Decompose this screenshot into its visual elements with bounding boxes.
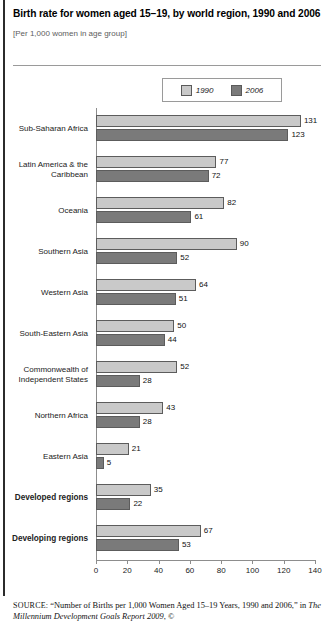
bar-value-label: 51 bbox=[179, 294, 188, 304]
source-line2-pre: and 2006,” in bbox=[261, 601, 308, 610]
legend-item-2006[interactable]: 2006 bbox=[231, 85, 264, 96]
bar-group-1990: 131 bbox=[96, 115, 317, 127]
chart-subtitle: [Per 1,000 women in age group] bbox=[13, 29, 322, 39]
legend-label: 1990 bbox=[196, 86, 214, 95]
bar-group-1990: 90 bbox=[96, 238, 249, 250]
category-label: Latin America & theCaribbean bbox=[0, 160, 96, 179]
bar-group-1990: 67 bbox=[96, 525, 213, 537]
bar-value-label: 28 bbox=[143, 417, 152, 427]
bar[interactable] bbox=[96, 156, 216, 168]
category-label: Northern Africa bbox=[0, 411, 96, 421]
x-tick-label: 0 bbox=[94, 566, 98, 575]
x-tick bbox=[315, 560, 316, 564]
category-label: Developing regions bbox=[0, 534, 96, 544]
bar-value-label: 50 bbox=[177, 321, 186, 331]
row-bars: 131123 bbox=[96, 108, 332, 149]
bar[interactable] bbox=[96, 211, 191, 223]
bar[interactable] bbox=[96, 170, 209, 182]
bar[interactable] bbox=[96, 197, 224, 209]
bar-value-label: 90 bbox=[240, 239, 249, 249]
bar-value-label: 72 bbox=[212, 171, 221, 181]
row-bars: 5044 bbox=[96, 313, 332, 354]
bar-group-1990: 82 bbox=[96, 197, 236, 209]
bar-value-label: 52 bbox=[180, 253, 189, 263]
category-label-line: Western Asia bbox=[41, 288, 88, 298]
bar[interactable] bbox=[96, 115, 301, 127]
bar-value-label: 77 bbox=[219, 157, 228, 167]
bar[interactable] bbox=[96, 238, 237, 250]
bar[interactable] bbox=[96, 129, 288, 141]
x-tick-label: 100 bbox=[246, 566, 259, 575]
category-label-line: Eastern Asia bbox=[43, 452, 88, 462]
bar-value-label: 53 bbox=[182, 540, 191, 550]
bar-group-2006: 51 bbox=[96, 293, 188, 305]
x-tick-label: 120 bbox=[277, 566, 290, 575]
source-line1: “Number of Births per 1,000 Women Aged 1… bbox=[50, 601, 259, 610]
category-label-line: Commonwealth of bbox=[24, 365, 88, 375]
x-axis-ticks: 020406080100120140 bbox=[0, 560, 332, 578]
bar-value-label: 22 bbox=[133, 499, 142, 509]
category-label-line: Caribbean bbox=[51, 170, 88, 180]
bar-group-2006: 123 bbox=[96, 129, 305, 141]
bar[interactable] bbox=[96, 457, 104, 469]
bar[interactable] bbox=[96, 498, 130, 510]
source-note: SOURCE: “Number of Births per 1,000 Wome… bbox=[13, 600, 323, 621]
row-bars: 4328 bbox=[96, 395, 332, 436]
x-tick bbox=[159, 560, 160, 564]
bar-group-2006: 61 bbox=[96, 211, 203, 223]
legend-label: 2006 bbox=[246, 86, 264, 95]
bar[interactable] bbox=[96, 402, 163, 414]
x-tick-label: 140 bbox=[308, 566, 321, 575]
bar-group-2006: 72 bbox=[96, 170, 221, 182]
page-title: Birth rate for women aged 15–19, by worl… bbox=[13, 7, 322, 20]
row-bars: 9052 bbox=[96, 231, 332, 272]
legend-item-1990[interactable]: 1990 bbox=[181, 85, 214, 96]
bar-group-2006: 53 bbox=[96, 539, 191, 551]
x-tick bbox=[284, 560, 285, 564]
bar[interactable] bbox=[96, 484, 151, 496]
bar[interactable] bbox=[96, 525, 201, 537]
bar-group-1990: 52 bbox=[96, 361, 189, 373]
row-bars: 8261 bbox=[96, 190, 332, 231]
legend-swatch-icon bbox=[181, 85, 192, 96]
category-label: Commonwealth ofIndependent States bbox=[0, 365, 96, 384]
bar-group-1990: 43 bbox=[96, 402, 175, 414]
chart-row: Eastern Asia215 bbox=[0, 436, 332, 477]
bar-group-1990: 50 bbox=[96, 320, 186, 332]
x-tick bbox=[127, 560, 128, 564]
chart-row: South-Eastern Asia5044 bbox=[0, 313, 332, 354]
bar[interactable] bbox=[96, 252, 177, 264]
row-bars: 215 bbox=[96, 436, 332, 477]
bar[interactable] bbox=[96, 539, 179, 551]
chart-row: Northern Africa4328 bbox=[0, 395, 332, 436]
bar[interactable] bbox=[96, 443, 129, 455]
x-tick bbox=[252, 560, 253, 564]
bar-group-1990: 64 bbox=[96, 279, 208, 291]
chart-row: Oceania8261 bbox=[0, 190, 332, 231]
category-label-line: South-Eastern Asia bbox=[20, 329, 88, 339]
bar[interactable] bbox=[96, 416, 140, 428]
legend-swatch-icon bbox=[231, 85, 242, 96]
chart-row: Developing regions6753 bbox=[0, 518, 332, 559]
bar-group-2006: 28 bbox=[96, 375, 152, 387]
bar[interactable] bbox=[96, 375, 140, 387]
source-line2-post: , © bbox=[164, 612, 175, 621]
category-label-line: Northern Africa bbox=[35, 411, 88, 421]
bar-group-1990: 35 bbox=[96, 484, 163, 496]
category-label-line: Southern Asia bbox=[38, 247, 88, 257]
x-tick bbox=[190, 560, 191, 564]
bar[interactable] bbox=[96, 293, 176, 305]
chart-row: Developed regions3522 bbox=[0, 477, 332, 518]
bar-value-label: 43 bbox=[166, 403, 175, 413]
bar[interactable] bbox=[96, 279, 196, 291]
bar-group-2006: 28 bbox=[96, 416, 152, 428]
bar-value-label: 123 bbox=[291, 130, 304, 140]
chart-page: Birth rate for women aged 15–19, by worl… bbox=[0, 0, 332, 621]
bar[interactable] bbox=[96, 334, 165, 346]
bar-value-label: 28 bbox=[143, 376, 152, 386]
bar-group-1990: 21 bbox=[96, 443, 141, 455]
bar[interactable] bbox=[96, 361, 177, 373]
bar[interactable] bbox=[96, 320, 174, 332]
bar-value-label: 64 bbox=[199, 280, 208, 290]
bar-value-label: 131 bbox=[304, 116, 317, 126]
